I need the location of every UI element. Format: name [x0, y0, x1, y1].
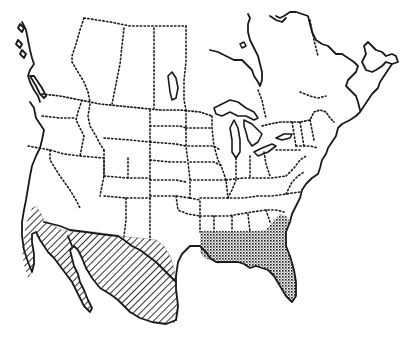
hudson-bay-island [240, 42, 246, 48]
western-range-area [22, 206, 178, 324]
us-state-borders [28, 100, 318, 240]
lake-erie [254, 144, 276, 156]
lake-winnipeg [168, 72, 178, 100]
lake-ontario [276, 134, 292, 140]
lake-huron [244, 120, 262, 146]
canada-us-border [42, 94, 212, 116]
lake-michigan [230, 120, 240, 158]
canada-provincial-borders [72, 18, 326, 118]
lake-superior [214, 100, 258, 120]
canada-us-border-east [262, 110, 334, 126]
range-map [0, 0, 410, 356]
